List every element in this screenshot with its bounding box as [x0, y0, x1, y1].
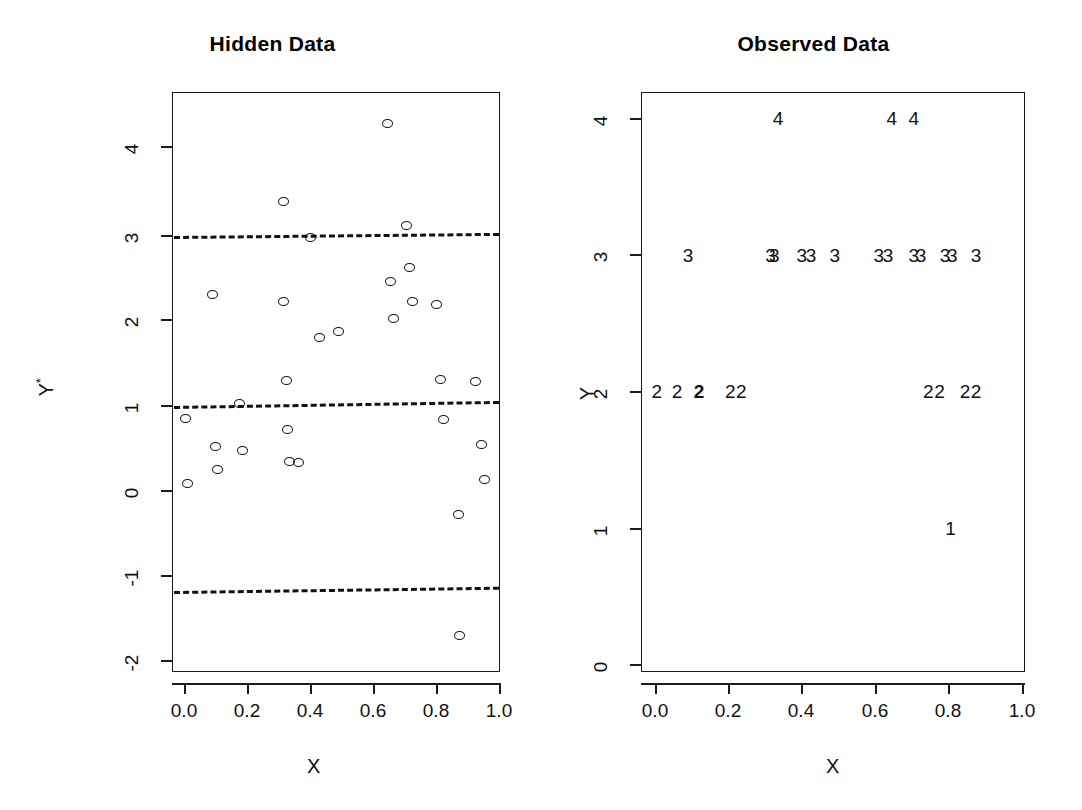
hidden-data-point: [407, 297, 418, 306]
observed-data-label: 3: [806, 245, 817, 264]
observed-data-label: 2: [736, 382, 747, 401]
observed-data-label: 4: [908, 109, 919, 128]
panel-hidden-data: Hidden Data 4 3 2 1 0 -1 -2 0.0 0.2 0.4 …: [0, 0, 545, 810]
hidden-data-point: [305, 233, 316, 242]
observed-scatter-layer: 44433333333333332222222221: [545, 0, 1082, 810]
hidden-data-point: [382, 119, 393, 128]
hidden-data-point: [210, 442, 221, 451]
hidden-data-point: [281, 376, 292, 385]
hidden-data-point: [404, 263, 415, 272]
hidden-data-point: [278, 197, 289, 206]
observed-data-label: 3: [947, 245, 958, 264]
observed-data-label: 2: [725, 382, 736, 401]
observed-data-label: 2: [934, 382, 945, 401]
hidden-data-point: [314, 333, 325, 342]
hidden-data-point: [212, 465, 223, 474]
observed-data-label: 2: [923, 382, 934, 401]
observed-data-label: 3: [971, 245, 982, 264]
hidden-data-point: [453, 510, 464, 519]
hidden-data-point: [237, 446, 248, 455]
observed-data-label: 2: [694, 382, 705, 401]
hidden-data-point: [438, 415, 449, 424]
observed-data-label: 3: [916, 245, 927, 264]
hidden-data-point: [234, 399, 245, 408]
hidden-data-point: [385, 277, 396, 286]
figure-canvas: Hidden Data 4 3 2 1 0 -1 -2 0.0 0.2 0.4 …: [0, 0, 1082, 810]
hidden-data-point: [479, 475, 490, 484]
hidden-data-point: [207, 290, 218, 299]
observed-data-label: 2: [960, 382, 971, 401]
observed-data-label: 2: [652, 382, 663, 401]
observed-data-label: 3: [883, 245, 894, 264]
observed-data-label: 2: [672, 382, 683, 401]
hidden-data-point: [476, 440, 487, 449]
hidden-data-point: [401, 221, 412, 230]
hidden-data-point: [435, 375, 446, 384]
hidden-data-point: [293, 458, 304, 467]
observed-data-label: 3: [830, 245, 841, 264]
hidden-scatter-layer: [0, 0, 545, 810]
observed-data-label: 1: [945, 518, 956, 537]
observed-data-label: 4: [886, 109, 897, 128]
hidden-data-point: [388, 314, 399, 323]
hidden-data-point: [470, 377, 481, 386]
panel-observed-data: Observed Data 4 3 2 1 0 0.0 0.2 0.4 0.6 …: [545, 0, 1082, 810]
hidden-data-point: [282, 425, 293, 434]
observed-data-label: 2: [971, 382, 982, 401]
observed-data-label: 3: [683, 245, 694, 264]
hidden-data-point: [431, 300, 442, 309]
hidden-data-point: [278, 297, 289, 306]
hidden-data-point: [182, 479, 193, 488]
observed-data-label: 4: [773, 109, 784, 128]
hidden-data-point: [333, 327, 344, 336]
hidden-data-point: [454, 631, 465, 640]
observed-data-label: 3: [769, 245, 780, 264]
hidden-data-point: [180, 414, 191, 423]
